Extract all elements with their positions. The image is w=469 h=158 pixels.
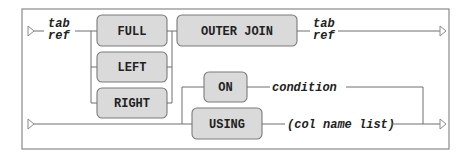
keyword-text: OUTER JOIN [201, 25, 273, 39]
start-arrow-icon [28, 26, 34, 36]
start-tab-ref-label-line2: ref [48, 29, 70, 43]
keyword-right: RIGHT [97, 88, 167, 118]
syntax-diagram: tab ref FULL LEFT RIGHT OUTER JOIN tab r… [0, 0, 469, 158]
start-arrow-icon [28, 119, 34, 129]
keyword-full: FULL [97, 15, 167, 46]
keyword-using: USING [192, 108, 262, 139]
end-tab-ref-label-line2: ref [313, 29, 335, 43]
end-arrow-icon [440, 119, 446, 129]
keyword-on: ON [204, 72, 247, 102]
keyword-text: USING [209, 118, 245, 132]
keyword-text: FULL [118, 25, 147, 39]
end-arrow-icon [440, 26, 446, 36]
keyword-text: LEFT [118, 61, 147, 75]
col-name-list-label: (col name list) [287, 118, 395, 132]
keyword-text: RIGHT [114, 97, 150, 111]
keyword-text: ON [218, 81, 232, 95]
condition-label: condition [272, 81, 337, 95]
keyword-left: LEFT [97, 52, 167, 82]
keyword-outer-join: OUTER JOIN [177, 15, 297, 46]
